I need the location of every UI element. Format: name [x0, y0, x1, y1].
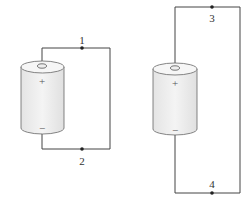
point-3-dot	[210, 5, 214, 9]
left-circuit: + − 1 2	[21, 34, 110, 167]
negative-terminal-label: −	[172, 124, 178, 136]
point-3-label: 3	[209, 12, 215, 24]
right-circuit: + − 3 4	[153, 5, 240, 195]
point-1-label: 1	[79, 34, 85, 46]
point-4-label: 4	[209, 178, 215, 190]
positive-terminal-label: +	[39, 75, 45, 87]
left-battery: + −	[21, 61, 64, 134]
point-2-label: 2	[79, 155, 85, 167]
positive-terminal-label: +	[172, 77, 178, 89]
point-4-dot	[210, 191, 214, 195]
right-battery: + −	[153, 63, 197, 136]
negative-terminal-label: −	[39, 122, 45, 134]
point-2-dot	[80, 147, 84, 151]
point-1-dot	[80, 46, 84, 50]
diagram: + − 1 2 + − 3 4	[0, 0, 246, 208]
